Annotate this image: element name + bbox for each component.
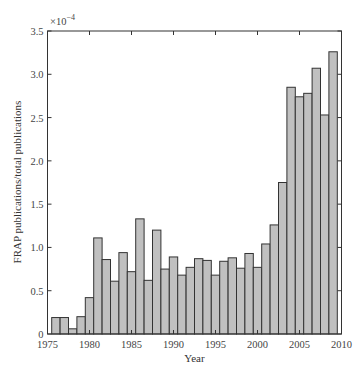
bar-1979 bbox=[77, 317, 85, 334]
bar-1995 bbox=[211, 275, 219, 334]
bar-1985 bbox=[127, 272, 135, 334]
x-tick-label: 2000 bbox=[247, 339, 268, 350]
bar-2004 bbox=[287, 87, 295, 334]
bar-1981 bbox=[94, 238, 102, 334]
y-tick-label: 1.0 bbox=[30, 242, 43, 253]
x-tick-labels: 19751980198519901995200020052010 bbox=[37, 339, 352, 350]
bar-1987 bbox=[144, 280, 152, 334]
bar-2000 bbox=[253, 267, 261, 334]
bar-1976 bbox=[52, 318, 60, 334]
bar-1992 bbox=[186, 267, 194, 334]
y-tick-label: 2.5 bbox=[30, 113, 43, 124]
y-axis-label: FRAP publications/total publications bbox=[11, 101, 23, 264]
bar-1977 bbox=[60, 318, 68, 334]
y-tick-label: 3.0 bbox=[30, 69, 43, 80]
bar-1978 bbox=[69, 329, 77, 334]
y-tick-label: 2.0 bbox=[30, 156, 43, 167]
bar-1997 bbox=[228, 258, 236, 334]
bar-1991 bbox=[178, 275, 186, 334]
bar-2009 bbox=[329, 52, 337, 334]
bar-1986 bbox=[136, 219, 144, 334]
bar-2001 bbox=[262, 244, 270, 334]
x-tick-label: 1995 bbox=[205, 339, 226, 350]
x-tick-label: 1990 bbox=[163, 339, 184, 350]
bar-1998 bbox=[237, 268, 245, 334]
x-tick-label: 1975 bbox=[37, 339, 58, 350]
x-tick-label: 1985 bbox=[121, 339, 142, 350]
x-tick-label: 2010 bbox=[331, 339, 352, 350]
bar-2006 bbox=[304, 93, 312, 334]
y-tick-label: 3.5 bbox=[30, 26, 43, 37]
bar-2005 bbox=[295, 97, 303, 334]
bar-2007 bbox=[312, 68, 320, 334]
bars-group bbox=[52, 52, 338, 334]
x-axis-label: Year bbox=[184, 352, 205, 364]
y-tick-label: 0 bbox=[38, 329, 43, 340]
y-multiplier: ×10−4 bbox=[50, 13, 75, 27]
bar-1983 bbox=[111, 281, 119, 334]
bar-1980 bbox=[85, 298, 93, 334]
bar-1994 bbox=[203, 260, 211, 334]
bar-2008 bbox=[321, 115, 329, 334]
y-tick-label: 1.5 bbox=[30, 199, 43, 210]
bar-2003 bbox=[279, 183, 287, 335]
bar-chart: 19751980198519901995200020052010 00.51.0… bbox=[0, 0, 360, 374]
bar-1989 bbox=[161, 269, 169, 334]
y-tick-label: 0.5 bbox=[30, 286, 43, 297]
x-tick-label: 1980 bbox=[79, 339, 100, 350]
bar-2002 bbox=[270, 225, 278, 334]
bar-1990 bbox=[169, 257, 177, 334]
bar-1982 bbox=[102, 260, 110, 334]
bar-1993 bbox=[195, 259, 203, 334]
bar-1999 bbox=[245, 253, 253, 334]
bar-1996 bbox=[220, 261, 228, 334]
x-tick-label: 2005 bbox=[289, 339, 310, 350]
bar-1984 bbox=[119, 253, 127, 334]
y-tick-labels: 00.51.01.52.02.53.03.5 bbox=[30, 26, 43, 340]
bar-1988 bbox=[153, 230, 161, 334]
